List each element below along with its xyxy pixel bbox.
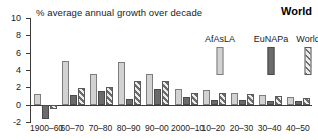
bar [118, 62, 125, 104]
legend-swatch [217, 47, 224, 75]
x-tick-label: 10–20 [199, 124, 227, 133]
x-tick-label: 70–80 [86, 124, 114, 133]
y-tick-label: 4 [16, 66, 21, 75]
x-tick-label: 60–70 [58, 124, 86, 133]
bar [98, 91, 105, 105]
y-tick: 8 [26, 35, 31, 36]
bar [231, 93, 238, 105]
x-tick-label: 90–00 [143, 124, 171, 133]
zero-baseline [30, 105, 312, 106]
bar [106, 87, 113, 104]
bar [267, 101, 274, 105]
growth-bar-chart: % average annual growth over decade Worl… [0, 0, 318, 140]
x-tick-label: 80–90 [115, 124, 143, 133]
y-tick: 10 [26, 18, 31, 19]
chart-subtitle: % average annual growth over decade [36, 7, 202, 18]
chart-title: World [281, 5, 312, 17]
bar [183, 97, 190, 104]
legend-label: World [296, 34, 318, 44]
bar [146, 74, 153, 104]
bar [134, 81, 141, 104]
bar [219, 93, 226, 104]
y-tick-label: 6 [16, 48, 21, 57]
y-tick-label: -2 [13, 118, 21, 127]
bar [239, 100, 246, 105]
bar [203, 90, 210, 104]
bar [247, 94, 254, 105]
bar [295, 101, 302, 104]
bar [287, 97, 294, 104]
bar [303, 98, 310, 105]
bar [78, 88, 85, 104]
y-tick: 2 [26, 87, 31, 88]
legend-swatch [268, 47, 275, 75]
x-tick-label: 2000–10 [171, 124, 199, 133]
bar [90, 74, 97, 104]
y-tick: 6 [26, 53, 31, 54]
y-tick-label: 8 [16, 31, 21, 40]
x-tick-label: 40–50 [284, 124, 312, 133]
y-tick-label: 10 [11, 14, 21, 23]
x-tick-label: 30–40 [256, 124, 284, 133]
bar [259, 95, 266, 105]
legend-label: EuNAPa [254, 34, 289, 44]
bar [126, 99, 133, 104]
bar [34, 94, 41, 104]
legend-label: AfAsLA [205, 34, 235, 44]
bar [162, 81, 169, 105]
x-tick-label: 20–30 [227, 124, 255, 133]
bar [191, 93, 198, 105]
bar [62, 61, 69, 104]
legend-swatch [305, 47, 312, 75]
bar [275, 96, 282, 105]
bar [154, 89, 161, 105]
bar [211, 100, 218, 104]
y-tick-label: 2 [16, 83, 21, 92]
bar [70, 95, 77, 105]
y-tick: 4 [26, 70, 31, 71]
bar [50, 105, 57, 109]
bar [42, 105, 49, 119]
x-tick-label: 1900–60 [30, 124, 58, 133]
bar [175, 89, 182, 105]
y-tick-label: 0 [16, 100, 21, 109]
